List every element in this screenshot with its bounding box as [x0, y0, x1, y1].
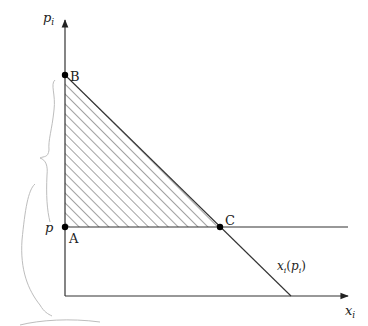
point-b-label: B [70, 69, 80, 84]
consumer-surplus-diagram: pi xi p B A C xi(pi) [0, 0, 368, 326]
point-c [217, 224, 223, 230]
point-c-label: C [225, 213, 235, 228]
point-a [62, 224, 68, 230]
price-label: p [45, 220, 54, 235]
point-a-label: A [68, 231, 79, 246]
point-b [62, 72, 68, 78]
y-axis-label: pi [43, 10, 54, 27]
x-axis-label: xi [345, 303, 355, 320]
demand-curve-label: xi(pi) [277, 259, 306, 275]
